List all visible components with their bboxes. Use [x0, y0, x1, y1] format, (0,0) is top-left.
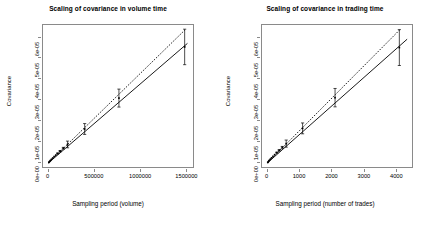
x-tick-label: 1000000 — [129, 173, 151, 179]
data-point — [118, 97, 120, 99]
x-tick-label: 1500000 — [175, 173, 197, 179]
y-tick-label: 6e-05 — [253, 36, 259, 62]
x-tick-mark — [299, 169, 300, 172]
x-tick-mark — [186, 169, 187, 172]
plot-area — [261, 24, 413, 168]
x-axis-label: Sampling period (number of trades) — [217, 200, 433, 207]
x-tick-label: 4000 — [390, 173, 403, 179]
panel-title: Scaling of covariance in trading time — [217, 5, 433, 12]
x-tick-label: 0 — [46, 173, 49, 179]
y-axis-label-wrap: Covariance — [221, 24, 233, 168]
x-tick-mark — [267, 169, 268, 172]
y-axis-label: Covariance — [6, 45, 12, 137]
x-tick-label: 2000 — [325, 173, 338, 179]
panel-title: Scaling of covariance in volume time — [0, 5, 216, 12]
data-point — [84, 128, 86, 130]
x-tick-mark — [140, 169, 141, 172]
data-point — [67, 144, 69, 146]
data-point — [59, 150, 61, 152]
data-point — [276, 152, 278, 154]
plot-canvas — [262, 25, 412, 167]
figure-two-panel-covariance-scaling: Scaling of covariance in volume time Cov… — [0, 0, 433, 225]
x-tick-label: 500000 — [84, 173, 103, 179]
data-point — [184, 46, 186, 48]
data-point — [272, 156, 274, 158]
data-point — [334, 97, 336, 99]
x-tick-mark — [396, 169, 397, 172]
data-point — [55, 154, 57, 156]
data-point — [63, 147, 65, 149]
panel-volume-time: Scaling of covariance in volume time Cov… — [0, 0, 216, 225]
series-fitted — [49, 43, 188, 162]
panel-trading-time: Scaling of covariance in trading time Co… — [217, 0, 433, 225]
data-point — [274, 154, 276, 156]
plot-canvas — [43, 25, 193, 167]
x-tick-label: 0 — [265, 173, 268, 179]
x-tick-mark — [94, 169, 95, 172]
x-tick-mark — [331, 169, 332, 172]
x-tick-label: 1000 — [293, 173, 306, 179]
data-point — [302, 128, 304, 130]
data-point — [57, 153, 59, 155]
series-fitted — [268, 39, 408, 163]
data-point — [53, 156, 55, 158]
x-axis-label: Sampling period (volume) — [0, 200, 216, 207]
x-tick-label: 3000 — [358, 173, 371, 179]
x-tick-mark — [48, 169, 49, 172]
y-axis-label-wrap: Covariance — [2, 24, 14, 168]
data-point — [285, 143, 287, 145]
y-tick-label: 6e-05 — [34, 36, 40, 62]
data-point — [398, 47, 400, 49]
x-tick-mark — [364, 169, 365, 172]
data-point — [271, 157, 273, 159]
y-axis-label: Covariance — [225, 45, 231, 137]
data-point — [281, 147, 283, 149]
plot-area — [42, 24, 194, 168]
series-reference — [268, 30, 400, 163]
series-reference — [49, 30, 185, 163]
data-point — [52, 157, 54, 159]
data-point — [278, 149, 280, 151]
